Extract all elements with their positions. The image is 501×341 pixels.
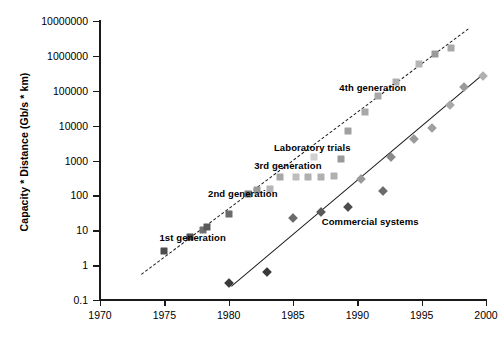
- y-tick-mark: [93, 21, 100, 22]
- data-point-marker: [277, 174, 284, 181]
- data-point-marker: [331, 173, 338, 180]
- y-tick-mark: [93, 126, 100, 127]
- y-tick-mark: [93, 265, 100, 266]
- x-tick-label: 1970: [70, 309, 130, 321]
- x-tick-label: 2000: [456, 309, 501, 321]
- y-tick-mark: [93, 91, 100, 92]
- data-point-marker: [478, 71, 488, 81]
- data-point-marker: [288, 213, 298, 223]
- x-tick-mark: [164, 299, 165, 306]
- y-tick-label: 10000000: [41, 15, 88, 27]
- chart-annotation: 4th generation: [339, 82, 406, 93]
- y-tick-mark: [93, 161, 100, 162]
- y-tick-label: 10000: [59, 120, 88, 132]
- x-tick-mark: [486, 299, 487, 306]
- data-point-marker: [445, 100, 455, 110]
- y-axis-title: Capacity * Distance (Gb/s * km): [18, 32, 30, 272]
- data-point-marker: [416, 60, 423, 67]
- y-tick-label: 100: [70, 189, 88, 201]
- data-point-marker: [292, 173, 299, 180]
- x-tick-label: 1980: [199, 309, 259, 321]
- data-point-marker: [378, 186, 388, 196]
- y-tick-label: 1000000: [47, 50, 88, 62]
- data-point-marker: [225, 210, 232, 217]
- y-tick-mark: [93, 230, 100, 231]
- x-tick-mark: [422, 299, 423, 306]
- chart-annotation: Laboratory trials: [274, 142, 351, 153]
- y-tick-label: 100000: [53, 85, 88, 97]
- data-point-marker: [345, 128, 352, 135]
- x-tick-mark: [293, 299, 294, 306]
- y-tick-label: 10: [76, 224, 88, 236]
- data-point-marker: [318, 173, 325, 180]
- x-tick-label: 1985: [263, 309, 323, 321]
- chart-annotation: 3rd generation: [254, 159, 321, 170]
- data-point-marker: [431, 51, 438, 58]
- data-point-marker: [224, 278, 234, 288]
- x-tick-label: 1995: [392, 309, 452, 321]
- data-point-marker: [427, 123, 437, 133]
- x-tick-mark: [357, 299, 358, 306]
- chart-annotation: 2nd generation: [208, 188, 278, 199]
- chart-annotation: 1st generation: [159, 231, 225, 242]
- data-point-marker: [305, 173, 312, 180]
- y-tick-mark: [93, 195, 100, 196]
- x-tick-label: 1975: [134, 309, 194, 321]
- x-tick-label: 1990: [327, 309, 387, 321]
- y-tick-label: 1: [82, 259, 88, 271]
- data-point-marker: [337, 156, 344, 163]
- data-point-marker: [203, 224, 210, 231]
- data-point-marker: [262, 267, 272, 277]
- x-tick-mark: [229, 299, 230, 306]
- chart-annotation: Commercial systems: [322, 216, 419, 227]
- data-point-marker: [362, 108, 369, 115]
- plot-area: 1st generation2nd generation3rd generati…: [100, 21, 486, 300]
- y-tick-label: 1000: [65, 155, 88, 167]
- y-tick-label: 0.1: [73, 294, 88, 306]
- data-point-marker: [374, 93, 381, 100]
- y-tick-mark: [93, 300, 100, 301]
- data-point-marker: [161, 247, 168, 254]
- y-tick-mark: [93, 56, 100, 57]
- data-point-marker: [356, 174, 366, 184]
- data-point-marker: [448, 44, 455, 51]
- chart-container: Capacity * Distance (Gb/s * km) 0.111010…: [0, 0, 501, 341]
- data-point-marker: [459, 82, 469, 92]
- data-point-marker: [343, 203, 353, 213]
- x-tick-mark: [100, 299, 101, 306]
